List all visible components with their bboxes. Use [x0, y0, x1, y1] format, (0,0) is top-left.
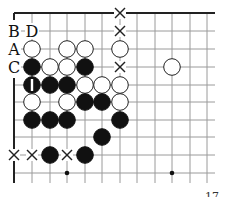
black-stone — [77, 94, 94, 111]
black-stone — [59, 112, 76, 129]
point-label-c: C — [8, 58, 20, 77]
white-stone — [94, 77, 111, 94]
black-stone — [42, 147, 59, 164]
page-number-fragment: 17 — [205, 190, 219, 197]
white-stone — [112, 41, 129, 58]
black-stone — [112, 112, 129, 129]
go-board-diagram: BDAC — [0, 0, 227, 197]
white-stone — [77, 77, 94, 94]
white-stone — [59, 59, 76, 76]
white-stone — [164, 59, 181, 76]
cross-mark-icon — [26, 149, 38, 161]
star-point — [65, 171, 70, 176]
black-stone — [77, 147, 94, 164]
cross-mark-icon — [114, 25, 126, 37]
white-stone — [77, 41, 94, 58]
cross-mark-icon — [61, 149, 73, 161]
white-stone — [59, 41, 76, 58]
white-stone — [24, 41, 41, 58]
black-stone — [24, 112, 41, 129]
black-stone — [24, 59, 41, 76]
cross-mark-icon — [114, 7, 126, 19]
white-stone — [112, 94, 129, 111]
move-number-marker — [31, 79, 33, 91]
black-stone — [77, 59, 94, 76]
black-stone — [94, 94, 111, 111]
star-point — [170, 171, 175, 176]
black-stone — [94, 129, 111, 146]
point-label-a: A — [7, 40, 20, 59]
cross-mark-icon — [8, 149, 20, 161]
white-stone — [24, 94, 41, 111]
point-label-b: B — [8, 22, 20, 41]
white-stone — [59, 94, 76, 111]
cross-mark-icon — [114, 61, 126, 73]
black-stone — [59, 77, 76, 94]
white-stone — [112, 77, 129, 94]
black-stone — [42, 112, 59, 129]
white-stone — [42, 59, 59, 76]
black-stone — [42, 77, 59, 94]
point-label-d: D — [26, 22, 39, 41]
